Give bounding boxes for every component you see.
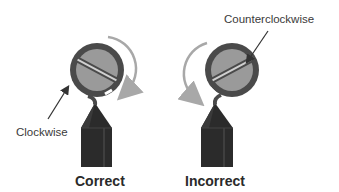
wire-conductor-incorrect	[201, 95, 233, 167]
counterclockwise-label: Counterclockwise	[224, 13, 314, 25]
correct-panel	[48, 37, 136, 167]
counterclockwise-rotation-arrow	[184, 43, 207, 98]
incorrect-caption: Incorrect	[185, 173, 245, 189]
wire-conductor-correct	[81, 96, 112, 167]
clockwise-label: Clockwise	[16, 126, 68, 138]
screw-terminal-correct	[70, 43, 124, 97]
clockwise-pointer-arrow	[48, 87, 68, 119]
screw-terminal-incorrect	[205, 43, 259, 97]
correct-caption: Correct	[75, 173, 125, 189]
counterclockwise-pointer-arrow	[247, 31, 268, 62]
wiring-diagram	[0, 0, 339, 192]
incorrect-panel	[184, 31, 268, 167]
